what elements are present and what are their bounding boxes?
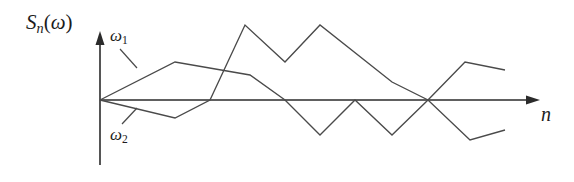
series-label-omega-1-subscript: 1 — [122, 34, 128, 47]
x-axis-arrowhead — [526, 96, 540, 105]
random-walk-figure: Sn(ω) ω1 ω2 n — [0, 0, 574, 182]
leader-line-omega-2 — [122, 108, 137, 124]
y-axis-label-open-paren: ( — [44, 10, 51, 34]
leader-line-omega-1 — [120, 49, 137, 68]
y-axis-arrowhead — [96, 31, 105, 45]
series-label-omega-1: ω1 — [110, 27, 128, 47]
y-axis-label-close-paren: ) — [65, 10, 72, 34]
series-label-omega-2-base: ω — [110, 125, 122, 144]
series-label-omega-1-base: ω — [110, 26, 122, 45]
x-axis — [100, 96, 540, 105]
y-axis-label-arg: ω — [51, 10, 66, 34]
y-axis-label-base: S — [26, 10, 37, 34]
x-axis-label: n — [541, 104, 551, 124]
y-axis-label: Sn(ω) — [26, 12, 72, 35]
series-line-omega-1 — [100, 62, 505, 135]
plot-canvas — [0, 0, 574, 182]
y-axis-label-subscript: n — [37, 20, 44, 36]
series-label-omega-2: ω2 — [110, 126, 128, 146]
series-label-omega-2-subscript: 2 — [122, 133, 128, 146]
